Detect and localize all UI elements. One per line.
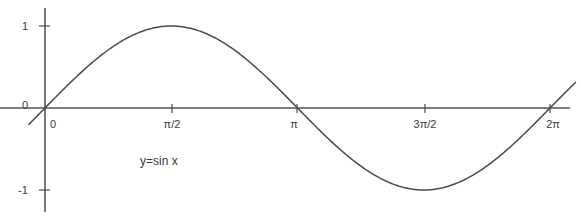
y-axis-label-1: 1 <box>22 21 28 32</box>
x-axis-label-0: 0 <box>50 119 56 130</box>
sine-curve-figure: 1 0 -1 0 π/2 π 3π/2 2π y=sin x <box>0 0 581 218</box>
x-axis-label-3pi-over-2: 3π/2 <box>414 119 437 130</box>
plot-canvas <box>0 0 581 218</box>
y-axis-label-0: 0 <box>22 100 28 111</box>
y-axis-label-minus-1: -1 <box>18 185 28 196</box>
curve-equation-annotation: y=sin x <box>140 155 178 167</box>
x-axis-label-pi-over-2: π/2 <box>164 119 181 130</box>
x-axis-label-2pi: 2π <box>546 119 560 130</box>
x-axis-label-pi: π <box>290 119 298 130</box>
